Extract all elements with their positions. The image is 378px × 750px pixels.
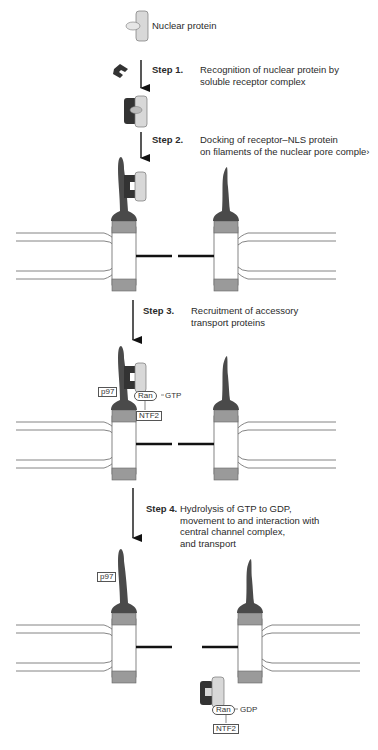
filament-right-step4 [237,559,263,613]
step-1: Step 1.Recognition of nuclear protein by… [152,64,339,87]
pore-step3 [16,410,336,480]
receptor-docked-step3 [124,363,146,392]
pore-step4 [16,613,172,683]
nuclear-protein-label: Nuclear protein [152,20,216,31]
gdp-tag-step4: GDP [240,705,257,714]
step-2-number: Step 2. [152,134,200,146]
filament-right-step2 [213,167,239,221]
soluble-receptor [113,64,128,78]
step-3: Step 3.Recruitment of accessory transpor… [143,305,298,328]
ran-tag-step3: Ran [134,391,157,401]
pore-step2 [16,221,336,291]
receptor-nls-complex-step1 [124,96,147,127]
step-1-number: Step 1. [152,64,200,76]
step-4-number: Step 4. [146,503,180,515]
p97-tag-step4: p97 [97,572,116,582]
filament-right-step3 [213,356,239,410]
ntf2-tag-step3: NTF2 [136,411,162,421]
nuclear-protein-free [126,11,148,41]
ran-tag-step4: Ran [212,705,235,715]
nuclear-import-diagram [0,0,378,750]
gtp-tag-step3: GTP [165,391,181,400]
p97-tag-step3: p97 [98,387,117,397]
receptor-docked-step2 [124,172,146,201]
ntf2-tag-step4: NTF2 [213,724,239,734]
step-2: Step 2.Docking of receptor–NLS protein o… [152,134,370,157]
step-4: Step 4.Hydrolysis of GTP to GDP, movemen… [146,503,319,549]
step-3-number: Step 3. [143,305,191,317]
released-complex-step4 [200,677,224,707]
